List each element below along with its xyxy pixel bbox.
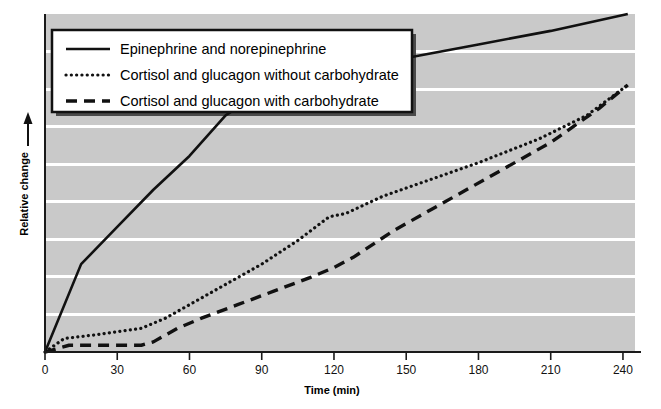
legend: Epinephrine and norepinephrineCortisol a… (52, 30, 412, 112)
legend-label-1: Epinephrine and norepinephrine (120, 41, 326, 57)
x-tick-label: 30 (111, 363, 125, 377)
chart-figure: 0306090120150180210240 Time (min) Relati… (0, 0, 661, 409)
x-tick-label: 60 (183, 363, 197, 377)
x-tick-label: 90 (255, 363, 269, 377)
x-tick-label: 0 (42, 363, 49, 377)
y-axis-title: Relative change (18, 152, 30, 236)
x-tick-label: 120 (324, 363, 344, 377)
legend-label-3: Cortisol and glucagon with carbohydrate (120, 93, 379, 109)
x-tick-label: 240 (613, 363, 633, 377)
line-chart-svg: 0306090120150180210240 Time (min) Relati… (0, 0, 661, 409)
x-tick-label: 180 (468, 363, 488, 377)
x-tick-label: 150 (396, 363, 416, 377)
x-axis-title: Time (min) (304, 384, 360, 396)
legend-label-2: Cortisol and glucagon without carbohydra… (120, 67, 399, 83)
x-tick-label: 210 (541, 363, 561, 377)
